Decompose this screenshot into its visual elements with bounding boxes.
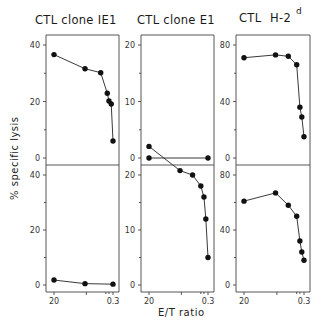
data-point <box>109 101 114 106</box>
panels: 02040010200408002040200.301020200.304080… <box>30 35 311 306</box>
panel-1-1: 01020200.3 <box>125 144 215 306</box>
y-tick-label: 20 <box>30 226 40 235</box>
data-point <box>146 144 151 149</box>
x-tick-label: 20 <box>144 297 154 306</box>
data-point <box>299 114 304 119</box>
x-tick-label: 0.3 <box>107 297 120 306</box>
panel-1-0: 02040200.3 <box>30 165 120 306</box>
panel-title-e1: CTL clone E1 <box>137 13 215 27</box>
x-tick-label: 0.3 <box>298 297 311 306</box>
panel-0-2: 04080 <box>220 35 310 165</box>
panel-title-ie1: CTL clone IE1 <box>35 13 117 27</box>
y-tick-label: 0 <box>225 281 230 290</box>
x-tick-label: 20 <box>239 297 249 306</box>
y-tick-label: 40 <box>220 226 230 235</box>
y-tick-label: 40 <box>30 171 40 180</box>
figure: CTL clone IE1 CTL clone E1 CTL H-2 d % s… <box>0 0 331 332</box>
svg-text:d: d <box>296 6 302 16</box>
data-point <box>98 70 103 75</box>
data-point <box>203 216 208 221</box>
data-point <box>51 52 56 57</box>
panel-0-0: 02040 <box>30 35 119 165</box>
data-point <box>286 203 291 208</box>
data-point <box>205 155 210 160</box>
data-point <box>205 255 210 260</box>
data-point <box>301 134 306 139</box>
data-point <box>241 55 246 60</box>
y-tick-label: 40 <box>220 98 230 107</box>
data-point <box>294 214 299 219</box>
data-point <box>301 258 306 263</box>
data-point <box>82 66 87 71</box>
x-axis-label: E/T ratio <box>158 307 205 318</box>
panel-0-1: 01020 <box>125 35 214 165</box>
data-point <box>82 281 87 286</box>
y-tick-label: 0 <box>130 281 135 290</box>
series-line <box>244 55 304 137</box>
data-point <box>177 168 182 173</box>
y-axis-label: % specific lysis <box>9 116 20 200</box>
y-tick-label: 20 <box>125 171 135 180</box>
y-tick-label: 10 <box>125 98 135 107</box>
y-tick-label: 0 <box>35 281 40 290</box>
y-tick-label: 20 <box>125 41 135 50</box>
y-tick-label: 80 <box>220 171 230 180</box>
data-point <box>241 198 246 203</box>
data-point <box>105 91 110 96</box>
y-tick-label: 0 <box>130 154 135 163</box>
x-tick-label: 20 <box>49 297 59 306</box>
y-tick-label: 0 <box>35 154 40 163</box>
svg-text:CTL: CTL <box>239 11 262 25</box>
data-point <box>273 52 278 57</box>
data-point <box>286 54 291 59</box>
data-point <box>273 190 278 195</box>
data-point <box>198 183 203 188</box>
data-point <box>299 249 304 254</box>
y-tick-label: 80 <box>220 41 230 50</box>
data-point <box>146 155 151 160</box>
y-tick-label: 20 <box>30 98 40 107</box>
data-point <box>297 238 302 243</box>
data-point <box>110 281 115 286</box>
data-point <box>294 62 299 67</box>
data-point <box>201 194 206 199</box>
x-tick-label: 0.3 <box>202 297 215 306</box>
series-line <box>244 193 304 260</box>
y-tick-label: 0 <box>225 154 230 163</box>
series-line <box>149 146 208 257</box>
data-point <box>110 138 115 143</box>
panel-title-h2d: CTL H-2 d <box>239 6 302 25</box>
data-point <box>297 104 302 109</box>
data-point <box>51 277 56 282</box>
y-tick-label: 40 <box>30 41 40 50</box>
y-tick-label: 10 <box>125 226 135 235</box>
data-point <box>190 172 195 177</box>
panel-1-2: 04080200.3 <box>220 165 311 306</box>
svg-text:H-2: H-2 <box>270 11 291 25</box>
